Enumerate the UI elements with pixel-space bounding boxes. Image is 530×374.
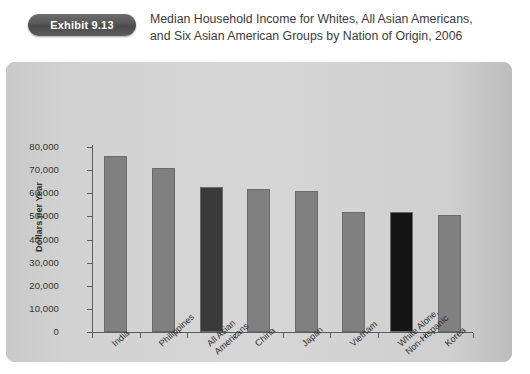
x-axis-tick [473, 333, 474, 338]
y-axis-tick [87, 216, 92, 217]
bar [200, 187, 223, 332]
y-axis-tick [87, 147, 92, 148]
bar [247, 189, 270, 332]
exhibit-title: Median Household Income for Whites, All … [150, 11, 520, 44]
x-axis-tick [378, 333, 379, 338]
y-axis-tick-label: 70,000 [29, 164, 59, 175]
y-axis-tick-label: 20,000 [29, 280, 59, 291]
plot-area: Dollars per Year 010,00020,00030,00040,0… [6, 62, 512, 362]
y-axis-tick-label: 30,000 [29, 257, 59, 268]
y-axis-tick [87, 193, 92, 194]
y-axis-tick-label: 80,000 [29, 141, 59, 152]
x-axis-tick [140, 333, 141, 338]
y-axis-tick [87, 170, 92, 171]
exhibit-header: Exhibit 9.13 Median Household Income for… [0, 0, 530, 62]
y-axis-tick [87, 286, 92, 287]
y-axis-tick [87, 309, 92, 310]
exhibit-title-line-1: Median Household Income for Whites, All … [150, 11, 520, 28]
x-axis-tick [283, 333, 284, 338]
y-axis-tick [87, 240, 92, 241]
exhibit-title-line-2: and Six Asian American Groups by Nation … [150, 28, 520, 45]
y-axis-tick-label: 40,000 [29, 234, 59, 245]
exhibit-number-label: Exhibit 9.13 [50, 19, 114, 31]
x-axis-tick [330, 333, 331, 338]
bar [104, 156, 127, 332]
bar [342, 212, 365, 332]
y-axis-tick-label: 50,000 [29, 210, 59, 221]
y-axis-tick-label: 10,000 [29, 303, 59, 314]
bar [152, 168, 175, 332]
exhibit-figure: Exhibit 9.13 Median Household Income for… [0, 0, 530, 374]
y-axis-tick-label: 60,000 [29, 187, 59, 198]
x-axis-tick [92, 333, 93, 338]
exhibit-number-badge: Exhibit 9.13 [28, 14, 136, 36]
y-axis-tick [87, 263, 92, 264]
y-axis-tick-label: 0 [54, 326, 59, 337]
bar [390, 212, 413, 332]
y-axis-line [92, 145, 93, 333]
x-axis-tick [187, 333, 188, 338]
bar [295, 191, 318, 332]
